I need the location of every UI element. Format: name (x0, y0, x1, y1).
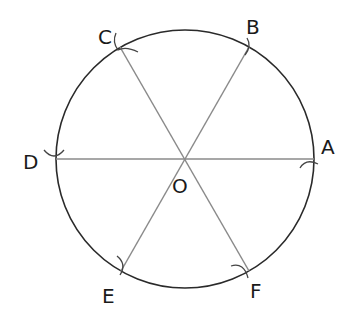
label-o: O (172, 174, 188, 198)
label-f: F (250, 279, 262, 303)
label-a: A (321, 135, 335, 159)
label-b: B (246, 15, 260, 39)
diagram-canvas: A B C D E F O (0, 0, 353, 317)
label-d: D (23, 150, 38, 174)
label-c: C (98, 25, 112, 49)
label-e: E (102, 284, 115, 308)
